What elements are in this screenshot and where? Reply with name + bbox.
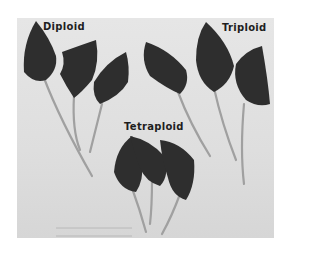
petiole	[162, 194, 180, 234]
leaf	[94, 52, 129, 104]
ruler	[56, 228, 132, 236]
petiole	[90, 104, 102, 152]
label-tetraploid: Tetraploid	[124, 121, 184, 132]
petiole	[214, 88, 236, 160]
leaf	[235, 46, 270, 105]
petiole	[44, 78, 92, 176]
petiole	[132, 188, 146, 232]
petiole	[150, 180, 152, 224]
label-diploid: Diploid	[43, 21, 85, 32]
leaf	[144, 42, 187, 94]
label-triploid: Triploid	[222, 22, 267, 33]
leaf	[60, 40, 97, 98]
petiole	[242, 104, 244, 184]
petiole	[74, 96, 80, 150]
